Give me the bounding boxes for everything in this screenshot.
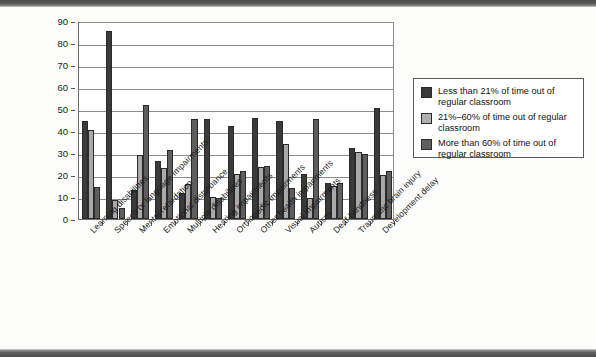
bar-chart-figure: 0102030405060708090 Learning disabilitie… [0, 0, 596, 357]
legend-item: 21%–60% of time out of regular classroom [421, 112, 577, 133]
legend-item: More than 60% of time out of regular cla… [421, 138, 577, 159]
series-2-swatch-icon [421, 139, 432, 150]
legend-label: 21%–60% of time out of regular classroom [438, 112, 577, 133]
chart-legend: Less than 21% of time out of regular cla… [413, 78, 584, 158]
x-axis-labels: Learning disabilitiesSpeech or language … [0, 0, 596, 357]
legend-label: More than 60% of time out of regular cla… [438, 138, 577, 159]
series-0-swatch-icon [421, 87, 432, 98]
legend-label: Less than 21% of time out of regular cla… [438, 86, 577, 107]
series-1-swatch-icon [421, 113, 432, 124]
legend-item: Less than 21% of time out of regular cla… [421, 86, 577, 107]
